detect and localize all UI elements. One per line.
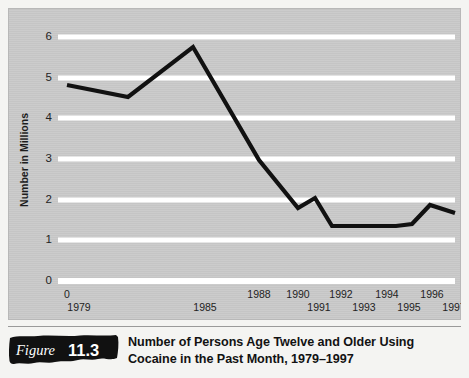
- x-tick-label-1985: 1985: [193, 301, 217, 313]
- figure-badge: Figure 11.3: [8, 334, 120, 366]
- y-axis-title: Number in Millions: [18, 113, 30, 207]
- x-tick-label-zero: 0: [64, 288, 70, 300]
- y-tick-label: 0: [46, 274, 52, 286]
- y-tick-label: 1: [46, 233, 52, 245]
- y-tick-label: 2: [46, 193, 52, 205]
- badge-word-label: Figure: [15, 342, 55, 358]
- figure-caption-band: Figure 11.3 Number of Persons Age Twelve…: [0, 326, 469, 378]
- x-tick-label-1994: 1994: [375, 288, 399, 300]
- x-tick-label-1988: 1988: [247, 288, 271, 300]
- x-tick-label-1990: 1990: [286, 288, 310, 300]
- x-axis-tick-labels-upper: 0 1988 1990 1992 1994 1996: [64, 288, 444, 300]
- figure-page: 6 5 4 3 2 1 0 Number in Millions 0 1988 …: [0, 0, 469, 378]
- x-tick-label-1991: 1991: [307, 301, 331, 313]
- badge-number-label: 11.3: [68, 341, 99, 359]
- line-chart: 6 5 4 3 2 1 0 Number in Millions 0 1988 …: [8, 8, 461, 320]
- x-tick-label-1979: 1979: [67, 301, 91, 313]
- x-tick-label-1993: 1993: [352, 301, 376, 313]
- x-tick-label-1996: 1996: [420, 288, 444, 300]
- y-tick-label: 3: [46, 152, 52, 164]
- x-tick-label-1992: 1992: [329, 288, 353, 300]
- y-axis-tick-labels: 6 5 4 3 2 1 0: [46, 30, 53, 286]
- x-tick-label-1995: 1995: [397, 301, 421, 313]
- y-tick-label: 6: [46, 30, 52, 42]
- figure-caption-text: Number of Persons Age Twelve and Older U…: [128, 334, 460, 368]
- y-tick-label: 4: [46, 111, 53, 123]
- caption-divider: [8, 326, 461, 327]
- x-axis-tick-labels-lower: 1979 1985 1991 1993 1995 1997: [67, 301, 461, 313]
- x-tick-label-1997: 1997: [442, 301, 461, 313]
- y-tick-label: 5: [46, 71, 52, 83]
